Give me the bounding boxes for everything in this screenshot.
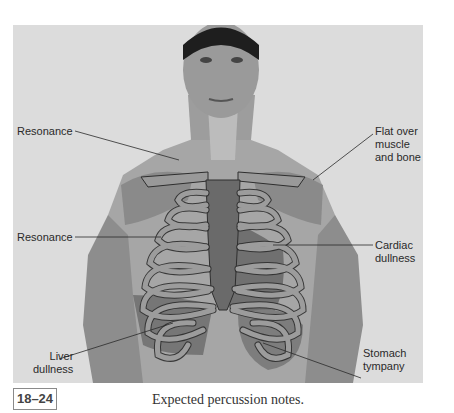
label-flat-muscle-bone: Flat over muscle and bone — [375, 125, 421, 164]
chest-illustration — [13, 25, 423, 383]
figure-number: 18–24 — [13, 388, 57, 410]
label-liver-dullness: Liver dullness — [33, 350, 73, 376]
label-cardiac-dullness: Cardiac dullness — [375, 239, 415, 265]
label-stomach-tympany: Stomach tympany — [363, 347, 406, 373]
label-resonance-upper: Resonance — [17, 125, 73, 138]
percussion-figure-photo: Resonance Resonance Liver dullness Flat … — [13, 25, 423, 383]
label-resonance-lower: Resonance — [17, 231, 73, 244]
figure-caption: Expected percussion notes. — [152, 392, 304, 408]
